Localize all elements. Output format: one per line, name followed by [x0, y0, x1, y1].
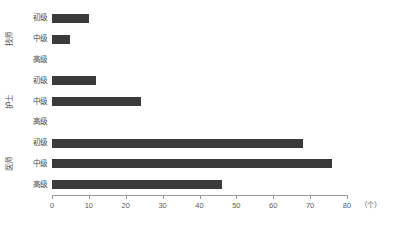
- bar: [52, 180, 222, 189]
- category-label: 初级: [33, 137, 47, 149]
- x-tick-label: 80: [332, 200, 362, 212]
- x-tick-label: 10: [74, 200, 104, 212]
- group-label: 医师: [0, 159, 18, 168]
- bar: [52, 35, 70, 44]
- x-tick-mark: [347, 196, 348, 199]
- bar: [52, 76, 96, 85]
- category-label: 初级: [33, 12, 47, 24]
- bar: [52, 139, 303, 148]
- bar: [52, 14, 89, 23]
- plot-area: [52, 8, 347, 195]
- x-tick-label: 0: [37, 200, 67, 212]
- x-axis-ticks: [52, 196, 348, 199]
- category-label: 初级: [33, 75, 47, 87]
- category-label: 中级: [33, 158, 47, 170]
- category-label: 中级: [33, 96, 47, 108]
- x-tick-mark: [126, 196, 127, 199]
- x-tick-label: 60: [258, 200, 288, 212]
- category-axis-labels: 初级中级高级初级中级高级初级中级高级: [18, 8, 50, 195]
- group-axis-labels: 技师护士医师: [0, 8, 18, 195]
- x-tick-mark: [163, 196, 164, 199]
- x-axis-unit-label: （个）: [360, 200, 381, 212]
- x-tick-label: 30: [148, 200, 178, 212]
- x-tick-label: 20: [111, 200, 141, 212]
- category-label: 高级: [33, 116, 47, 128]
- x-tick-label: 70: [295, 200, 325, 212]
- bar: [52, 159, 332, 168]
- x-tick-mark: [273, 196, 274, 199]
- bar-chart: 技师护士医师 初级中级高级初级中级高级初级中级高级 01020304050607…: [0, 0, 398, 229]
- category-label: 高级: [33, 54, 47, 66]
- group-label: 护士: [0, 97, 18, 106]
- group-label: 技师: [0, 34, 18, 43]
- x-axis-tick-labels: 01020304050607080: [0, 200, 398, 214]
- x-tick-label: 50: [221, 200, 251, 212]
- x-tick-mark: [52, 196, 53, 199]
- x-tick-mark: [310, 196, 311, 199]
- x-tick-mark: [236, 196, 237, 199]
- x-tick-mark: [89, 196, 90, 199]
- x-tick-mark: [200, 196, 201, 199]
- category-label: 高级: [33, 179, 47, 191]
- x-tick-label: 40: [185, 200, 215, 212]
- category-label: 中级: [33, 33, 47, 45]
- bar: [52, 97, 141, 106]
